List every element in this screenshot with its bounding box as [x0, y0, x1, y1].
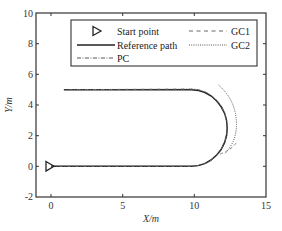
legend-start-point-label: Start point: [117, 26, 159, 37]
reference-path-line: [51, 90, 227, 167]
x-tick-label: 15: [261, 200, 271, 211]
start-point-marker: [46, 162, 54, 172]
gc2-line: [219, 85, 237, 154]
y-axis-label: Y/m: [3, 97, 14, 113]
y-tick-label: 8: [28, 38, 33, 49]
y-tick-label: 10: [23, 8, 33, 19]
y-tick-label: 4: [28, 99, 33, 110]
legend-pc-label: PC: [117, 53, 130, 64]
legend-gc2-label: GC2: [231, 40, 250, 51]
pc-line: [51, 89, 227, 166]
y-tick-label: 0: [28, 161, 33, 172]
trajectory-chart: 0 5 10 15 -2 0 2 4 6 8 10 X/m Y/m Start …: [0, 0, 282, 231]
legend: Start point Reference path PC GC1 GC2: [71, 20, 257, 66]
x-tick-label: 10: [189, 200, 199, 211]
y-tick-label: 2: [28, 130, 33, 141]
legend-gc1-label: GC1: [231, 26, 250, 37]
x-tick-label: 0: [49, 200, 54, 211]
legend-reference-path-label: Reference path: [117, 40, 177, 51]
y-tick-label: -2: [25, 191, 33, 202]
x-axis-label: X/m: [142, 213, 159, 224]
x-tick-label: 5: [120, 200, 125, 211]
y-tick-label: 6: [28, 69, 33, 80]
